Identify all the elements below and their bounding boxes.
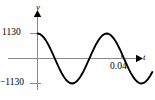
t-axis-label: t: [143, 53, 146, 62]
y-tick-label-positive: 1130: [2, 28, 21, 38]
waveform-figure: v t 1130 −1130 0.04: [0, 0, 155, 100]
t-axis-arrowhead: [136, 55, 143, 62]
y-tick-label-negative: −1130: [0, 78, 24, 88]
v-axis-label: v: [36, 3, 40, 12]
x-tick-label-004: 0.04: [110, 62, 127, 72]
